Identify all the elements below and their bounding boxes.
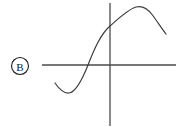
figure-container: B xyxy=(0,0,184,127)
graph-figure: B xyxy=(0,0,184,127)
label-letter: B xyxy=(16,61,23,73)
option-label-b: B xyxy=(12,58,29,75)
